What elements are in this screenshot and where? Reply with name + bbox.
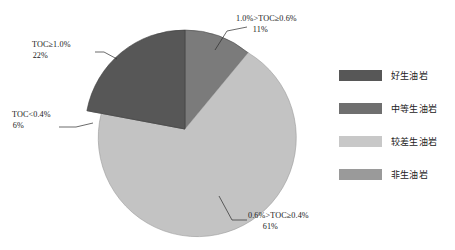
legend-item-good-source-rock[interactable]: 好生油岩	[339, 68, 428, 82]
callout-top-left-range: TOC≥1.0%	[32, 40, 71, 49]
leader-line-left	[59, 123, 93, 127]
callout-bottom-right-range: 0.6%>TOC≥0.4%	[248, 211, 309, 220]
legend-item-medium-source-rock[interactable]: 中等生油岩	[339, 101, 437, 115]
legend-swatch-icon	[339, 103, 382, 114]
legend-item-label: 非生油岩	[391, 168, 428, 181]
callout-top-right-percent: 11%	[236, 25, 297, 36]
callout-top-right-range: 1.0%>TOC≥0.6%	[236, 14, 297, 23]
leader-line-top-left	[95, 52, 117, 59]
legend-item-label: 较差生油岩	[391, 135, 437, 148]
callout-top-left-percent: 22%	[32, 51, 71, 62]
chart-plot-area: 1.0%>TOC≥0.6% 11% TOC≥1.0% 22% TOC<0.4% …	[0, 0, 340, 250]
callout-left-percent: 6%	[12, 121, 51, 132]
chart-legend: 好生油岩 中等生油岩 较差生油岩 非生油岩	[339, 68, 451, 183]
callout-left: TOC<0.4% 6%	[12, 110, 51, 131]
pie-chart-figure: 1.0%>TOC≥0.6% 11% TOC≥1.0% 22% TOC<0.4% …	[0, 0, 455, 250]
callout-top-left: TOC≥1.0% 22%	[32, 40, 71, 61]
callout-top-right: 1.0%>TOC≥0.6% 11%	[236, 14, 297, 35]
legend-item-non-source-rock[interactable]: 非生油岩	[339, 167, 428, 181]
legend-item-label: 中等生油岩	[391, 102, 437, 115]
callout-left-range: TOC<0.4%	[12, 110, 51, 119]
legend-swatch-icon	[339, 70, 382, 81]
legend-item-poor-source-rock[interactable]: 较差生油岩	[339, 134, 437, 148]
legend-swatch-icon	[339, 169, 382, 180]
callout-bottom-right-percent: 61%	[248, 222, 309, 233]
callout-bottom-right: 0.6%>TOC≥0.4% 61%	[248, 211, 309, 232]
legend-item-label: 好生油岩	[391, 69, 428, 82]
legend-swatch-icon	[339, 136, 382, 147]
